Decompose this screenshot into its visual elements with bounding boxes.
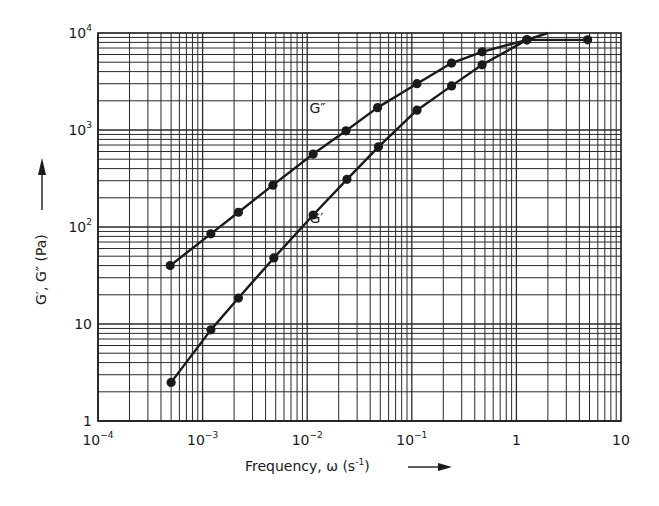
x-axis-title-text: Frequency, ω (s xyxy=(245,458,355,474)
data-point-marker xyxy=(206,229,215,238)
tick-label: 10−3 xyxy=(187,430,218,448)
tick-label: 102 xyxy=(68,217,92,235)
data-point-marker xyxy=(583,35,592,44)
data-point-marker xyxy=(166,261,175,270)
tick-label: 10 xyxy=(74,316,92,332)
x-axis-tick-labels: 10−410−310−210−1110 xyxy=(82,430,629,448)
series-label: G″ xyxy=(309,100,325,116)
y-axis-title-text: G′, G″ (Pa) xyxy=(33,234,49,305)
tick-label: 10−4 xyxy=(82,430,113,448)
x-axis-title: Frequency, ω (s-1) xyxy=(245,457,452,474)
data-point-marker xyxy=(268,181,277,190)
y-axis-title: G′, G″ (Pa) xyxy=(33,158,49,305)
tick-label: 104 xyxy=(68,23,92,41)
data-point-marker xyxy=(206,325,215,334)
x-axis-title-end: ) xyxy=(364,458,369,474)
tick-label: 10 xyxy=(612,432,630,448)
y-axis-tick-labels: 110102103104 xyxy=(68,23,92,429)
series-labels: G″G′ xyxy=(309,100,325,226)
rheology-chart: 10−410−310−210−1110 110102103104 G″G′ Fr… xyxy=(0,0,659,506)
tick-label: 1 xyxy=(83,413,92,429)
x-axis-arrow-icon xyxy=(408,463,452,471)
data-point-marker xyxy=(447,58,456,67)
data-point-marker xyxy=(447,81,456,90)
data-point-marker xyxy=(373,103,382,112)
y-axis-arrow-icon xyxy=(38,158,46,210)
tick-label: 1 xyxy=(512,432,521,448)
series-g-prime xyxy=(167,35,593,387)
data-point-marker xyxy=(478,60,487,69)
series-label: G′ xyxy=(309,210,323,226)
data-point-marker xyxy=(522,35,531,44)
data-point-marker xyxy=(269,253,278,262)
data-point-marker xyxy=(167,378,176,387)
data-point-marker xyxy=(412,106,421,115)
data-point-marker xyxy=(234,293,243,302)
svg-text:Frequency, ω (s-1): Frequency, ω (s-1) xyxy=(245,457,370,474)
tick-label: 103 xyxy=(68,120,92,138)
series-line xyxy=(170,33,548,266)
data-point-marker xyxy=(309,149,318,158)
data-point-marker xyxy=(374,142,383,151)
plot-grid xyxy=(98,33,621,421)
tick-label: 10−1 xyxy=(396,430,427,448)
data-point-marker xyxy=(234,208,243,217)
data-point-marker xyxy=(342,175,351,184)
data-point-marker xyxy=(412,79,421,88)
data-point-marker xyxy=(478,47,487,56)
data-point-marker xyxy=(341,126,350,135)
tick-label: 10−2 xyxy=(292,430,323,448)
x-axis-title-superscript: -1 xyxy=(355,457,364,467)
